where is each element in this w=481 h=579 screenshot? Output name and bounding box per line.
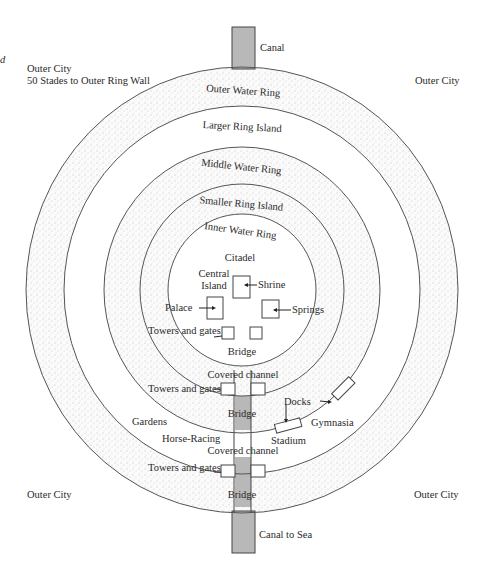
canal-north bbox=[232, 27, 255, 69]
docks-label: Docks bbox=[284, 396, 311, 407]
shrine-box bbox=[233, 276, 250, 298]
towers-gates-label-mid: Towers and gates bbox=[148, 383, 221, 394]
shrine-label: Shrine bbox=[258, 279, 286, 290]
canal-to-sea bbox=[232, 511, 255, 553]
canal-label: Canal bbox=[260, 42, 285, 53]
gymnasia-label: Gymnasia bbox=[311, 417, 354, 428]
canal-to-sea-label: Canal to Sea bbox=[259, 529, 312, 540]
springs-label: Springs bbox=[292, 304, 324, 315]
stadium-label: Stadium bbox=[271, 435, 306, 446]
towers-gates-label-outer: Towers and gates bbox=[148, 462, 221, 473]
central-island-label-2: Island bbox=[201, 280, 227, 291]
citadel-label: Citadel bbox=[225, 252, 255, 263]
towers-gates-label-inner: Towers and gates bbox=[148, 325, 221, 336]
bridge-label-mid: Bridge bbox=[228, 408, 257, 419]
tower-gate-inner-left bbox=[222, 327, 234, 339]
gardens-label: Gardens bbox=[132, 416, 167, 427]
title-fragment: d bbox=[0, 54, 6, 65]
atlantis-diagram: d Outer City 50 Stades to Outer Ring Wal… bbox=[0, 0, 481, 579]
horse-racing-label: Horse-Racing bbox=[162, 433, 221, 444]
tower-gate-outer-left bbox=[221, 465, 235, 477]
palace-label: Palace bbox=[165, 302, 193, 313]
outer-wall-note: 50 Stades to Outer Ring Wall bbox=[27, 75, 150, 86]
outer-city-label-tr: Outer City bbox=[415, 75, 460, 86]
tower-gate-inner-right bbox=[250, 327, 262, 339]
bridge-label-inner: Bridge bbox=[228, 346, 257, 357]
covered-channel-label-inner: Covered channel bbox=[208, 369, 279, 380]
outer-city-label-bl: Outer City bbox=[27, 489, 72, 500]
covered-channel-label-outer: Covered channel bbox=[208, 445, 279, 456]
tower-gate-mid-left bbox=[221, 383, 235, 395]
tower-gate-outer-right bbox=[251, 465, 265, 477]
tower-gate-mid-right bbox=[251, 383, 265, 395]
bridge-label-outer: Bridge bbox=[228, 489, 257, 500]
ring-label-larger-island: Larger Ring Island bbox=[202, 119, 282, 134]
central-island-label-1: Central bbox=[199, 268, 230, 279]
outer-city-label-tl: Outer City bbox=[27, 63, 72, 74]
outer-city-label-br: Outer City bbox=[414, 489, 459, 500]
